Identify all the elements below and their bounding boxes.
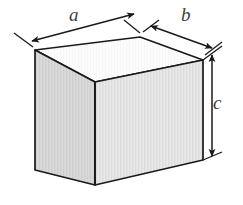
- figure-root: a b c: [0, 0, 243, 205]
- rectangular-box: [35, 37, 203, 185]
- box-diagram-svg: [0, 0, 243, 205]
- dimension-label-a: a: [69, 5, 79, 24]
- front-right-face: [95, 60, 203, 185]
- extension-tick-a-start: [14, 33, 33, 47]
- dimension-label-c: c: [213, 93, 221, 112]
- dimension-label-b: b: [181, 5, 191, 24]
- extension-tick-a-end: [124, 20, 140, 33]
- arrow-line-a: [32, 14, 134, 41]
